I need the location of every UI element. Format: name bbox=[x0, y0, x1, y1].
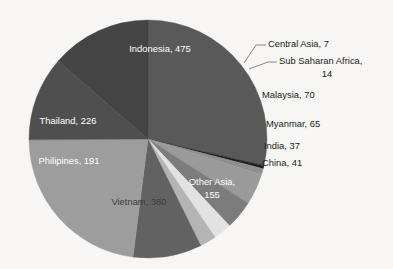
slice-label-philipines: Philipines, 191 bbox=[39, 155, 100, 166]
leader-line-sub-saharan-africa bbox=[249, 62, 277, 69]
pie-chart-canvas: Indonesia, 475 Thailand, 226 Philipines,… bbox=[0, 0, 393, 269]
slice-label-thailand: Thailand, 226 bbox=[40, 115, 97, 126]
callout-label-sub-saharan-africa-line2: 14 bbox=[322, 68, 332, 79]
callout-label-india: India, 37 bbox=[264, 140, 300, 151]
slice-label-vietnam: Vietnam, 380 bbox=[111, 196, 166, 207]
slice-label-indonesia: Indonesia, 475 bbox=[129, 43, 191, 54]
callout-label-myanmar: Myanmar, 65 bbox=[266, 118, 320, 129]
pie-slice-group bbox=[29, 20, 267, 258]
callout-label-sub-saharan-africa-line1: Sub Saharan Africa, bbox=[279, 55, 362, 66]
callout-label-central-asia: Central Asia, 7 bbox=[268, 38, 329, 49]
callout-label-malaysia: Malaysia, 70 bbox=[262, 89, 315, 100]
callout-label-china: China, 41 bbox=[262, 157, 302, 168]
slice-label-other-asia-line1: Other Asia, bbox=[189, 176, 235, 187]
pie-chart-figure: Indonesia, 475 Thailand, 226 Philipines,… bbox=[0, 0, 393, 269]
leader-line-central-asia bbox=[244, 45, 266, 63]
slice-label-other-asia-line2: 155 bbox=[204, 189, 220, 200]
